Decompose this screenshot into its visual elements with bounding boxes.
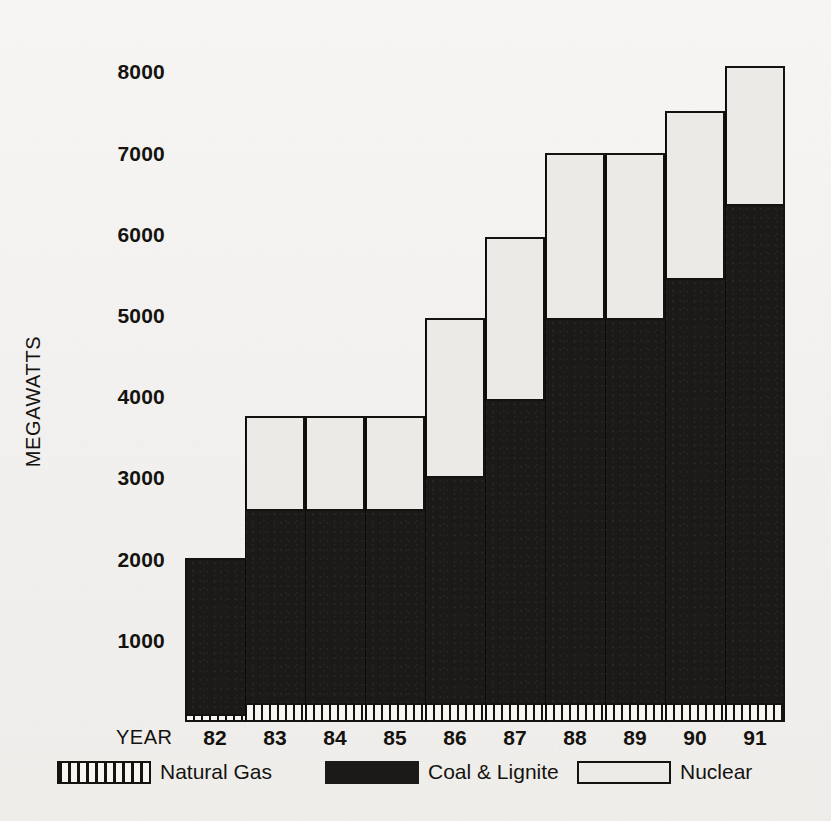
y-axis-tick-label: 8000	[117, 60, 165, 84]
legend-swatch-icon	[325, 761, 419, 784]
segment-natural-gas	[185, 714, 245, 722]
grain-texture	[365, 511, 425, 703]
grain-texture	[665, 280, 725, 704]
segment-natural-gas	[305, 703, 365, 722]
bar-divider	[545, 155, 546, 722]
legend-label: Coal & Lignite	[428, 760, 559, 784]
x-axis-tick-label: 83	[263, 726, 286, 750]
segment-coal-lignite	[725, 206, 785, 703]
bar-divider	[665, 113, 666, 722]
grain-texture	[185, 560, 245, 714]
grain-texture	[545, 320, 605, 703]
x-axis-title: YEAR	[116, 726, 172, 749]
bar-divider	[605, 155, 606, 722]
y-axis-ticks: 80007000600050004000300020001000	[60, 0, 165, 821]
segment-coal-lignite	[545, 320, 605, 703]
segment-coal-lignite	[305, 511, 365, 703]
segment-coal-lignite	[485, 401, 545, 703]
segment-natural-gas	[425, 703, 485, 722]
bar-86[interactable]	[425, 320, 485, 722]
bar-divider	[725, 68, 726, 722]
bar-88[interactable]	[545, 155, 605, 722]
bar-divider	[305, 418, 306, 722]
legend-label: Nuclear	[680, 760, 752, 784]
segment-natural-gas	[485, 703, 545, 722]
x-axis-tick-label: 91	[743, 726, 766, 750]
segment-nuclear	[665, 111, 725, 279]
legend-swatch-icon	[57, 761, 151, 784]
segment-coal-lignite	[665, 280, 725, 704]
segment-nuclear	[485, 237, 545, 401]
legend-item-natural-gas[interactable]: Natural Gas	[57, 760, 272, 784]
y-axis-title: MEGAWATTS	[22, 302, 45, 502]
x-axis-tick-label: 89	[623, 726, 646, 750]
segment-nuclear	[725, 66, 785, 206]
segment-natural-gas	[665, 703, 725, 722]
x-axis-tick-label: 90	[683, 726, 706, 750]
segment-natural-gas	[725, 703, 785, 722]
y-axis-tick-label: 5000	[117, 304, 165, 328]
bar-89[interactable]	[605, 155, 665, 722]
x-axis-tick-label: 82	[203, 726, 226, 750]
segment-nuclear	[245, 416, 305, 511]
bar-84[interactable]	[305, 418, 365, 722]
segment-coal-lignite	[605, 320, 665, 703]
segment-nuclear	[545, 153, 605, 320]
legend-label: Natural Gas	[160, 760, 272, 784]
segment-natural-gas	[605, 703, 665, 722]
grain-texture	[425, 478, 485, 703]
plot-area	[185, 40, 785, 722]
grain-texture	[485, 401, 545, 703]
stacked-bar-chart: 80007000600050004000300020001000 MEGAWAT…	[0, 0, 831, 821]
legend-item-coal-lignite[interactable]: Coal & Lignite	[325, 760, 559, 784]
y-axis-tick-label: 6000	[117, 223, 165, 247]
x-axis-ticks: 82838485868788899091	[185, 726, 785, 756]
x-axis-tick-label: 88	[563, 726, 586, 750]
bar-divider	[365, 418, 366, 722]
grain-texture	[305, 511, 365, 703]
bar-divider	[245, 418, 246, 722]
segment-coal-lignite	[365, 511, 425, 703]
x-axis-tick-label: 84	[323, 726, 346, 750]
bar-83[interactable]	[245, 418, 305, 722]
segment-nuclear	[365, 416, 425, 511]
chart-legend: Natural GasCoal & LigniteNuclear	[57, 760, 797, 794]
bar-divider	[425, 320, 426, 722]
x-axis-tick-label: 86	[443, 726, 466, 750]
x-axis-tick-label: 87	[503, 726, 526, 750]
segment-coal-lignite	[185, 558, 245, 714]
y-axis-tick-label: 4000	[117, 385, 165, 409]
segment-coal-lignite	[425, 478, 485, 703]
grain-texture	[605, 320, 665, 703]
segment-nuclear	[425, 318, 485, 478]
y-axis-tick-label: 3000	[117, 466, 165, 490]
segment-nuclear	[605, 153, 665, 320]
bar-85[interactable]	[365, 418, 425, 722]
legend-item-nuclear[interactable]: Nuclear	[577, 760, 752, 784]
bar-divider	[485, 239, 486, 722]
y-axis-tick-label: 1000	[117, 629, 165, 653]
y-axis-tick-label: 2000	[117, 548, 165, 572]
plot-edge-right	[783, 68, 785, 722]
bar-82[interactable]	[185, 558, 245, 722]
legend-swatch-icon	[577, 761, 671, 784]
bar-87[interactable]	[485, 239, 545, 722]
segment-nuclear	[305, 416, 365, 511]
segment-natural-gas	[545, 703, 605, 722]
segment-natural-gas	[245, 703, 305, 722]
grain-texture	[245, 511, 305, 703]
y-axis-tick-label: 7000	[117, 142, 165, 166]
segment-coal-lignite	[245, 511, 305, 703]
plot-edge-left	[185, 558, 187, 722]
segment-natural-gas	[365, 703, 425, 722]
x-axis-tick-label: 85	[383, 726, 406, 750]
bar-90[interactable]	[665, 113, 725, 722]
bar-91[interactable]	[725, 68, 785, 722]
grain-texture	[725, 206, 785, 703]
